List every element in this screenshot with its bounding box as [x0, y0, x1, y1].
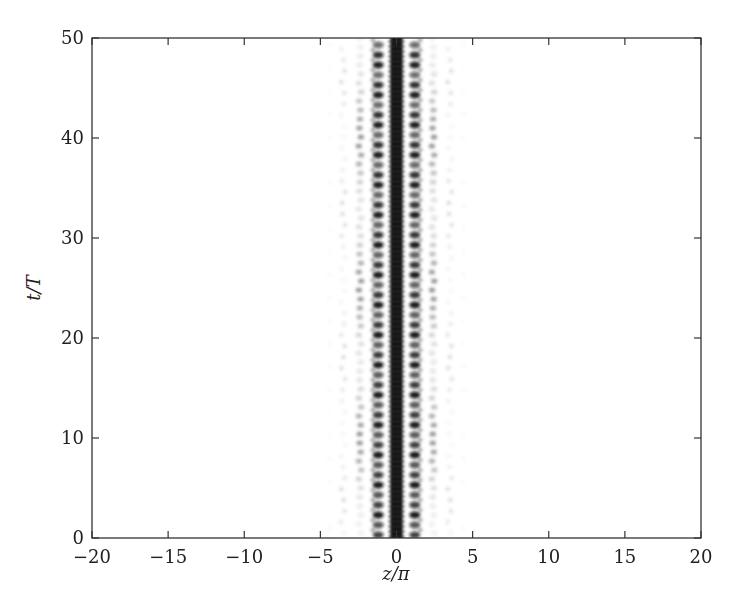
- x-tick-label: 15: [613, 546, 636, 567]
- x-tick-label: −10: [225, 546, 263, 567]
- x-tick-label: 10: [537, 546, 560, 567]
- y-tick-label: 0: [73, 527, 84, 548]
- heatmap-chart: −20−15−10−505101520 01020304050 z/π t/T: [0, 0, 741, 616]
- y-tick-label: 20: [61, 327, 84, 348]
- x-tick-label: −15: [149, 546, 187, 567]
- x-axis-label: z/π: [381, 563, 411, 584]
- y-tick-label: 40: [61, 127, 84, 148]
- y-tick-label: 30: [61, 227, 84, 248]
- y-axis-label: t/T: [23, 273, 44, 300]
- x-tick-label: 20: [690, 546, 713, 567]
- x-tick-label: −20: [73, 546, 111, 567]
- x-tick-label: 5: [467, 546, 478, 567]
- x-tick-label: −5: [307, 546, 334, 567]
- y-tick-label: 50: [61, 27, 84, 48]
- y-tick-label: 10: [61, 427, 84, 448]
